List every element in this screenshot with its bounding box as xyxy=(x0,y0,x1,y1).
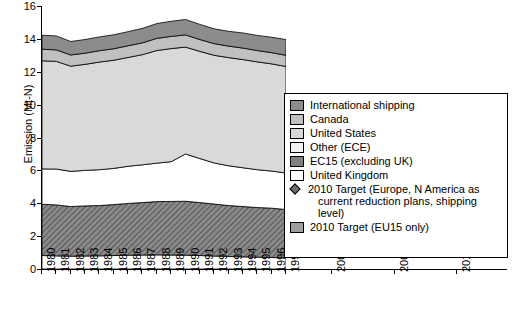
x-tick-mark xyxy=(331,270,332,274)
legend-item-international-shipping: International shipping xyxy=(290,99,503,111)
x-tick-label: 1987 xyxy=(145,248,157,272)
x-tick-mark xyxy=(199,270,200,274)
x-tick-label: 1995 xyxy=(260,248,272,272)
x-tick-mark xyxy=(84,270,85,274)
x-tick-label: 1993 xyxy=(232,248,244,272)
y-tick-label: 4 xyxy=(0,197,36,209)
legend-label: United States xyxy=(310,127,376,139)
legend-item-2010-target-eu15: 2010 Target (EU15 only) xyxy=(290,221,503,233)
legend-swatch-icon xyxy=(290,142,304,153)
x-tick-label: 1992 xyxy=(217,248,229,272)
y-tick-label: 6 xyxy=(0,164,36,176)
x-tick-label: 1982 xyxy=(74,248,86,272)
y-tick-label: 2 xyxy=(0,230,36,242)
y-tick-label: 8 xyxy=(0,132,36,144)
x-tick-mark xyxy=(41,270,42,274)
x-tick-label: 1983 xyxy=(88,248,100,272)
legend-label-line2: current reduction plans, shipping level) xyxy=(308,195,503,219)
x-tick-mark xyxy=(242,270,243,274)
legend: International shipping Canada United Sta… xyxy=(284,93,508,258)
x-tick-mark xyxy=(170,270,171,274)
x-tick-label: 1988 xyxy=(160,248,172,272)
x-tick-mark xyxy=(285,270,286,274)
x-tick-label: 1984 xyxy=(102,248,114,272)
plot-area xyxy=(41,6,285,270)
chart-container: Emission (Mt-N) 0246810121416 1980198119… xyxy=(0,0,513,317)
x-axis-extension xyxy=(285,269,507,270)
legend-label: Canada xyxy=(310,113,349,125)
legend-swatch-icon xyxy=(290,114,304,125)
x-tick-label: 1985 xyxy=(117,248,129,272)
x-tick-mark xyxy=(213,270,214,274)
legend-swatch-icon xyxy=(290,170,304,181)
legend-item-other-ece: Other (ECE) xyxy=(290,141,503,153)
x-tick-label: 1991 xyxy=(203,248,215,272)
legend-swatch-icon xyxy=(290,128,304,139)
x-tick-mark xyxy=(256,270,257,274)
legend-swatch-icon xyxy=(290,156,304,167)
legend-item-ec15-excluding-uk: EC15 (excluding UK) xyxy=(290,155,503,167)
legend-item-2010-target-europe: 2010 Target (Europe, N America as curren… xyxy=(290,183,503,219)
legend-item-united-states: United States xyxy=(290,127,503,139)
x-tick-label: 1994 xyxy=(246,248,258,272)
x-tick-label: 1986 xyxy=(131,248,143,272)
legend-swatch-icon xyxy=(290,100,304,111)
x-tick-label: 1989 xyxy=(174,248,186,272)
x-tick-mark xyxy=(113,270,114,274)
y-tick-label: 16 xyxy=(0,0,36,12)
legend-label: International shipping xyxy=(310,99,415,111)
area-series-united-states xyxy=(42,47,286,173)
legend-item-united-kingdom: United Kingdom xyxy=(290,169,503,181)
y-tick-label: 14 xyxy=(0,33,36,45)
x-tick-mark xyxy=(394,270,395,274)
x-tick-mark xyxy=(70,270,71,274)
x-tick-label: 1981 xyxy=(59,248,71,272)
x-tick-mark xyxy=(156,270,157,274)
legend-diamond-icon xyxy=(290,184,302,196)
x-tick-mark xyxy=(185,270,186,274)
stacked-area-series xyxy=(42,6,286,270)
x-tick-label: 1990 xyxy=(189,248,201,272)
x-tick-mark xyxy=(127,270,128,274)
y-tick-label: 12 xyxy=(0,66,36,78)
legend-label: 2010 Target (Europe, N America as xyxy=(308,183,503,195)
x-tick-mark xyxy=(55,270,56,274)
legend-label: United Kingdom xyxy=(310,169,388,181)
x-tick-mark xyxy=(456,270,457,274)
legend-label: EC15 (excluding UK) xyxy=(310,155,413,167)
x-tick-mark xyxy=(228,270,229,274)
y-tick-label: 10 xyxy=(0,99,36,111)
legend-swatch-icon xyxy=(290,222,304,233)
legend-item-canada: Canada xyxy=(290,113,503,125)
x-tick-mark xyxy=(141,270,142,274)
x-tick-mark xyxy=(98,270,99,274)
legend-label: 2010 Target (EU15 only) xyxy=(310,221,429,233)
x-tick-label: 1980 xyxy=(45,248,57,272)
x-tick-mark xyxy=(271,270,272,274)
y-tick-label: 0 xyxy=(0,263,36,275)
legend-label: Other (ECE) xyxy=(310,141,371,153)
